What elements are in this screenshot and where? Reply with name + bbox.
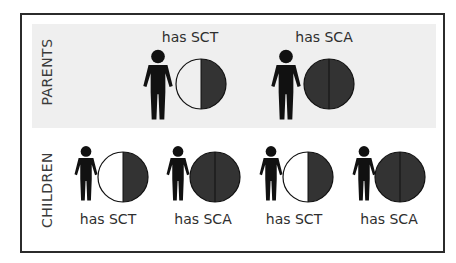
child-3-person-icon xyxy=(260,146,283,201)
parent-1-person-icon xyxy=(143,50,172,120)
child-2-person-icon xyxy=(167,146,190,201)
parent-1-half-filled-circle-icon xyxy=(176,59,226,109)
child-1-half-filled-circle-icon xyxy=(98,152,148,202)
child-4-filled-circle-icon xyxy=(375,152,425,202)
child-2-filled-circle-icon xyxy=(190,152,240,202)
child-1-person-icon xyxy=(75,146,98,201)
child-4-person-icon xyxy=(353,146,376,201)
diagram-graphics xyxy=(0,0,456,263)
parent-2-filled-circle-icon xyxy=(304,59,354,109)
child-3-half-filled-circle-icon xyxy=(283,152,333,202)
parent-2-person-icon xyxy=(271,50,300,120)
